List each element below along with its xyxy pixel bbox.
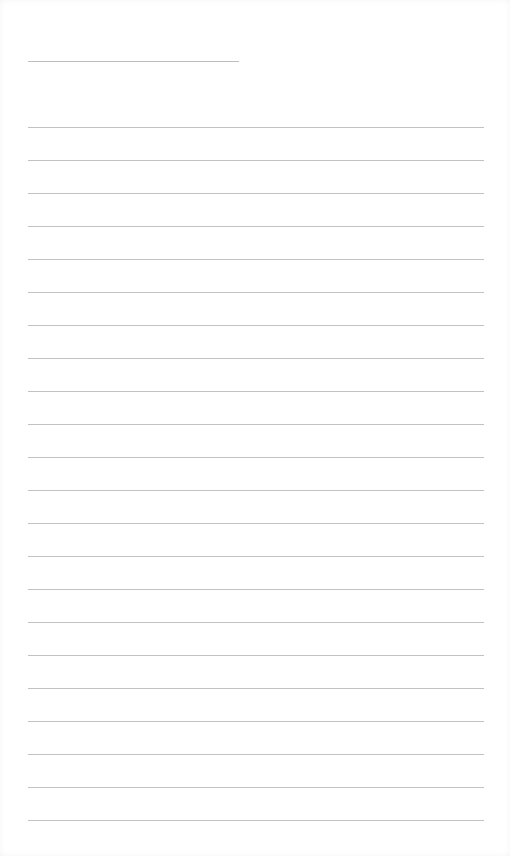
ruled-line	[28, 556, 484, 557]
ruled-line	[28, 193, 484, 194]
ruled-line	[28, 292, 484, 293]
title-underline	[28, 61, 239, 62]
ruled-line	[28, 325, 484, 326]
ruled-line	[28, 622, 484, 623]
ruled-line	[28, 160, 484, 161]
ruled-line	[28, 589, 484, 590]
ruled-line	[28, 457, 484, 458]
ruled-line	[28, 127, 484, 128]
ruled-line	[28, 358, 484, 359]
ruled-line	[28, 391, 484, 392]
ruled-line	[28, 754, 484, 755]
ruled-line	[28, 655, 484, 656]
ruled-line	[28, 424, 484, 425]
ruled-line	[28, 523, 484, 524]
ruled-line	[28, 787, 484, 788]
ruled-line	[28, 688, 484, 689]
ruled-line	[28, 226, 484, 227]
ruled-line	[28, 721, 484, 722]
ruled-line	[28, 820, 484, 821]
notepad-page	[0, 0, 510, 856]
ruled-line	[28, 259, 484, 260]
ruled-line	[28, 490, 484, 491]
